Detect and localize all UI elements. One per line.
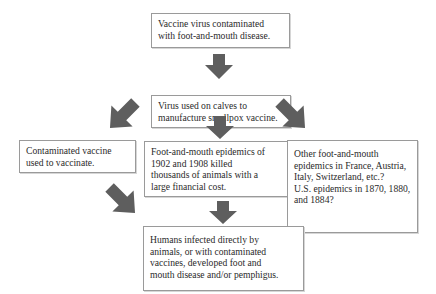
arrow-down-icon: [204, 54, 234, 80]
arrow-down-icon: [205, 116, 235, 140]
node-contaminated-vaccine-used: Contaminated vaccine used to vaccinate.: [19, 140, 136, 173]
node-text: Contaminated vaccine used to vaccinate.: [26, 145, 129, 168]
arrow-down-icon: [208, 201, 238, 225]
node-text: Foot-and-mouth epidemics of 1902 and 190…: [151, 146, 288, 192]
arrow-down-right-icon: [274, 97, 312, 135]
arrow-down-right-icon: [104, 182, 142, 220]
node-epidemics-1902-1908: Foot-and-mouth epidemics of 1902 and 190…: [144, 141, 295, 197]
node-other-epidemics: Other foot-and-mouth epidemics in France…: [287, 140, 418, 233]
arrow-down-left-icon: [103, 97, 141, 135]
node-text: Humans infected directly by animals, or …: [150, 234, 297, 280]
node-text: Vaccine virus contaminated with foot-and…: [158, 18, 283, 41]
node-vaccine-contaminated: Vaccine virus contaminated with foot-and…: [151, 13, 290, 48]
node-humans-infected: Humans infected directly by animals, or …: [143, 226, 304, 291]
node-text: Other foot-and-mouth epidemics in France…: [294, 148, 411, 206]
